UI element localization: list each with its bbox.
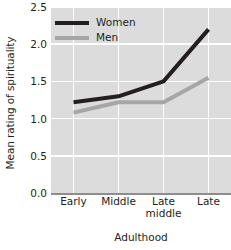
y-axis-tick-label: 0.0 <box>30 188 47 199</box>
y-axis-tick-labels: 0.00.51.01.52.02.5 <box>18 0 50 200</box>
x-axis-tick-label: Late <box>197 196 220 208</box>
x-axis-tick-label: Middle <box>101 196 136 208</box>
series-line-men <box>74 78 209 113</box>
chart-legend: WomenMen <box>55 17 175 47</box>
legend-item-men[interactable]: Men <box>55 32 175 43</box>
legend-label: Women <box>96 17 136 28</box>
y-axis-tick-label: 1.5 <box>30 76 47 87</box>
x-axis-tick-labels: EarlyMiddleLatemiddleLate <box>51 196 231 228</box>
x-axis-tick-label: Latemiddle <box>146 196 182 219</box>
x-axis-title: Adulthood <box>51 231 231 243</box>
y-axis-title: Mean rating of spirituality <box>0 0 20 205</box>
y-axis-tick-label: 0.5 <box>30 151 47 162</box>
spirituality-line-chart: Mean rating of spirituality 0.00.51.01.5… <box>0 0 231 250</box>
y-axis-tick-label: 2.5 <box>30 2 47 13</box>
y-axis-tick-label: 1.0 <box>30 113 47 124</box>
legend-item-women[interactable]: Women <box>55 17 175 28</box>
legend-swatch-men <box>55 36 89 40</box>
legend-swatch-women <box>55 21 89 25</box>
x-axis-tick-label: Early <box>60 196 87 208</box>
y-axis-tick-label: 2.0 <box>30 39 47 50</box>
legend-label: Men <box>96 32 118 43</box>
y-axis-title-text: Mean rating of spirituality <box>4 36 16 169</box>
